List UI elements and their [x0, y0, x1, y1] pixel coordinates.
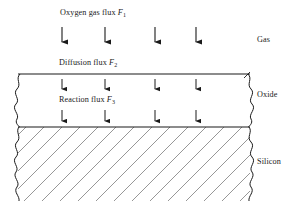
oxygen-gas-flux-label: Oxygen gas flux F1: [60, 9, 126, 17]
reaction-flux-text: Reaction flux: [59, 95, 107, 104]
reaction-flux-subscript: 3: [112, 99, 115, 105]
region-label-silicon: Silicon: [257, 158, 281, 166]
oxygen-gas-flux-subscript: 1: [123, 12, 126, 18]
oxygen-gas-flux-arrows: [62, 27, 196, 42]
oxidation-flux-figure: Oxygen gas flux F1 Diffusion flux F2 Rea…: [0, 0, 301, 213]
diffusion-flux-arrows: [62, 79, 196, 89]
left-torn-edge: [14, 74, 20, 201]
diffusion-flux-label: Diffusion flux F2: [59, 59, 117, 67]
oxygen-gas-flux-text: Oxygen gas flux: [60, 8, 118, 17]
region-label-oxide: Oxide: [257, 91, 278, 99]
diffusion-flux-subscript: 2: [114, 62, 117, 68]
right-torn-edge: [248, 74, 254, 201]
figure-canvas: [0, 0, 301, 213]
diffusion-flux-text: Diffusion flux: [59, 58, 109, 67]
reaction-flux-label: Reaction flux F3: [59, 96, 115, 104]
region-label-gas: Gas: [257, 36, 270, 44]
silicon-hatching: [0, 115, 301, 213]
reaction-flux-arrows: [62, 110, 196, 121]
